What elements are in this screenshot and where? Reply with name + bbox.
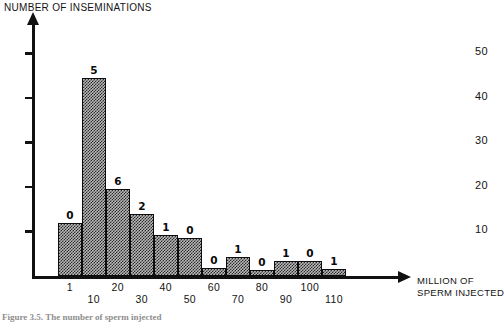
y-tick-mark bbox=[25, 186, 34, 189]
bar-value-label: 5 bbox=[82, 64, 106, 76]
bar bbox=[202, 268, 226, 276]
bar bbox=[178, 238, 202, 276]
x-axis-title-line1: MILLION OF bbox=[417, 275, 504, 287]
bar bbox=[106, 189, 130, 276]
bar-value-label: 1 bbox=[322, 255, 346, 267]
bar-value-label: 0 bbox=[298, 247, 322, 259]
x-tick-label: 110 bbox=[316, 293, 352, 305]
bar bbox=[226, 257, 250, 276]
x-tick-label: 60 bbox=[196, 281, 232, 293]
bar-value-label: 2 bbox=[130, 200, 154, 212]
bar bbox=[82, 78, 106, 276]
y-tick-mark bbox=[25, 97, 34, 100]
x-tick-label: 90 bbox=[268, 293, 304, 305]
x-axis-line bbox=[32, 276, 400, 279]
bar-value-label: 0 bbox=[250, 256, 274, 268]
y-tick-mark bbox=[25, 141, 34, 144]
x-tick-label: 70 bbox=[220, 293, 256, 305]
y-tick-label: 20 bbox=[464, 179, 488, 191]
bar-value-label: 0 bbox=[202, 254, 226, 266]
bar-value-label: 6 bbox=[106, 175, 130, 187]
bar-value-label: 1 bbox=[226, 243, 250, 255]
bar bbox=[154, 235, 178, 276]
bar-value-label: 1 bbox=[154, 221, 178, 233]
figure-caption: Figure 3.5. The number of sperm injected bbox=[2, 312, 472, 322]
x-tick-label: 80 bbox=[244, 281, 280, 293]
y-tick-label: 30 bbox=[464, 134, 488, 146]
x-tick-label: 100 bbox=[292, 281, 328, 293]
bar bbox=[58, 223, 82, 276]
bar bbox=[130, 214, 154, 276]
y-tick-mark bbox=[25, 230, 34, 233]
x-axis-title-line2: SPERM INJECTED bbox=[417, 287, 504, 299]
y-tick-label: 10 bbox=[464, 223, 488, 235]
plot-area: 056210010101 bbox=[35, 22, 400, 276]
y-tick-label: 40 bbox=[464, 90, 488, 102]
x-tick-label: 30 bbox=[124, 293, 160, 305]
x-tick-label: 50 bbox=[172, 293, 208, 305]
bar-value-label: 1 bbox=[274, 247, 298, 259]
x-tick-label: 1 bbox=[52, 281, 88, 293]
bar bbox=[274, 261, 298, 276]
bar-value-label: 0 bbox=[58, 209, 82, 221]
bar bbox=[298, 261, 322, 276]
x-axis-title: MILLION OF SPERM INJECTED bbox=[417, 275, 504, 298]
x-tick-label: 20 bbox=[100, 281, 136, 293]
x-tick-label: 40 bbox=[148, 281, 184, 293]
y-tick-mark bbox=[25, 52, 34, 55]
bar bbox=[322, 269, 346, 276]
bar bbox=[250, 270, 274, 276]
bar-value-label: 0 bbox=[178, 224, 202, 236]
y-tick-label: 50 bbox=[464, 45, 488, 57]
x-tick-label: 10 bbox=[76, 293, 112, 305]
